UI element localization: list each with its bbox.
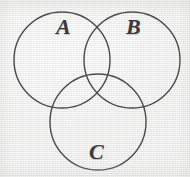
venn-diagram-figure: A B C [0, 0, 190, 177]
set-label-b: B [126, 16, 141, 38]
set-label-a: A [56, 16, 71, 38]
set-label-c: C [89, 141, 104, 163]
